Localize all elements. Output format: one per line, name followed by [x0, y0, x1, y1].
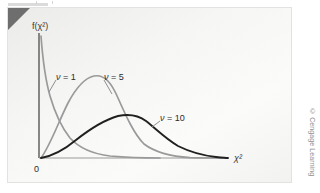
chi-square-plot: f(χ²) χ² 0 ν = 1 ν = 5 ν = 10: [8, 8, 292, 183]
figure-root: f(χ²) χ² 0 ν = 1 ν = 5 ν = 10 © Cengage …: [0, 0, 320, 193]
y-axis-label: f(χ²): [32, 21, 48, 31]
label-df5: ν = 5: [104, 72, 124, 82]
x-axis-label: χ²: [233, 153, 243, 163]
axis-lines: [39, 33, 226, 158]
label-df1: ν = 1: [56, 72, 76, 82]
origin-label: 0: [34, 164, 39, 174]
page-top-margin: [0, 0, 320, 7]
top-smudge: [8, 3, 48, 6]
curve-df1: [41, 36, 160, 158]
top-tick-mark: [52, 1, 53, 4]
copyright-credit: © Cengage Learning: [306, 108, 318, 186]
label-df10: ν = 10: [160, 113, 185, 123]
chart-panel: f(χ²) χ² 0 ν = 1 ν = 5 ν = 10: [7, 7, 292, 183]
